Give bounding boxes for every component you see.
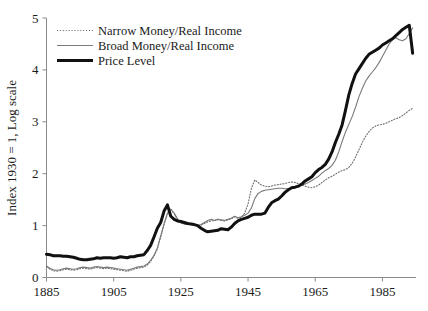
x-tick-label: 1905 xyxy=(101,284,127,299)
legend-label-narrow-money: Narrow Money/Real Income xyxy=(98,24,242,38)
y-tick-label: 1 xyxy=(32,218,39,233)
x-tick-label: 1945 xyxy=(235,284,261,299)
x-tick-label: 1965 xyxy=(302,284,328,299)
legend-label-price-level: Price Level xyxy=(98,54,156,68)
y-tick-label: 4 xyxy=(32,62,39,77)
y-tick-label: 3 xyxy=(32,114,39,129)
y-tick-label: 2 xyxy=(32,166,39,181)
y-axis-title: Index 1930 = 1, Log scale xyxy=(4,80,19,216)
x-tick-label: 1925 xyxy=(168,284,194,299)
line-chart: 012345 188519051925194519651985 Index 19… xyxy=(0,0,428,311)
legend-label-broad-money: Broad Money/Real Income xyxy=(98,39,235,53)
x-tick-label: 1985 xyxy=(369,284,395,299)
y-tick-label: 5 xyxy=(32,11,39,26)
x-tick-label: 1885 xyxy=(34,284,60,299)
chart-container: 012345 188519051925194519651985 Index 19… xyxy=(0,0,428,311)
